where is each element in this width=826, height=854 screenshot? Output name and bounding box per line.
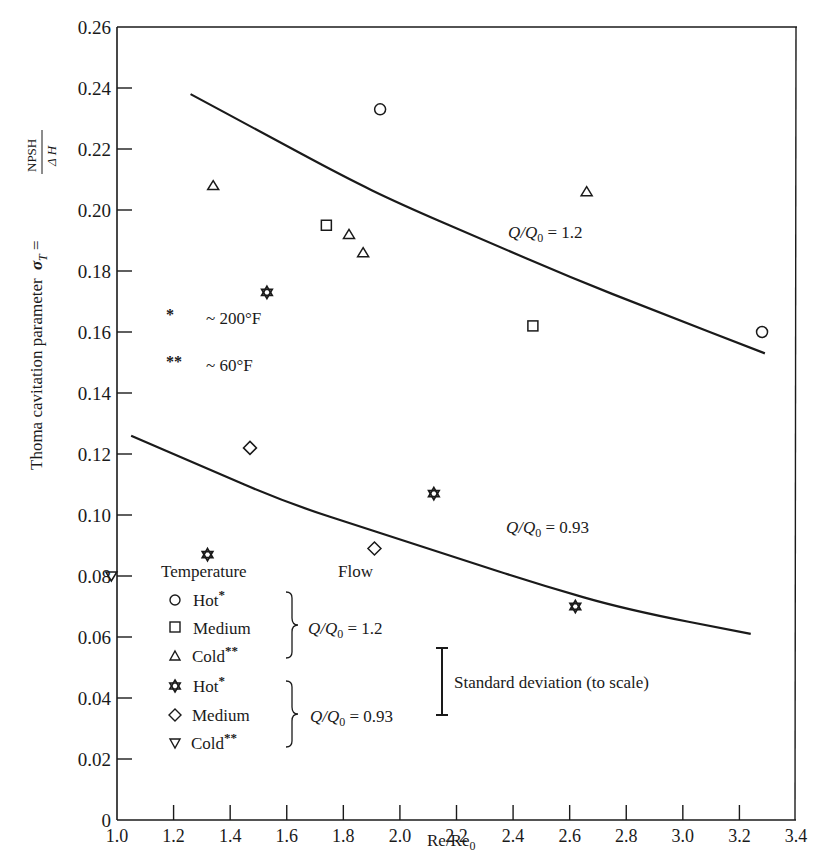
- diamond-marker-icon: [243, 441, 256, 454]
- svg-text:Hot*: Hot*: [193, 673, 225, 696]
- legend-header-flow: Flow: [338, 562, 374, 581]
- standard-deviation-bar: Standard deviation (to scale): [436, 648, 649, 715]
- square-marker-icon: [170, 622, 180, 632]
- svg-text:Hot*: Hot*: [193, 587, 225, 610]
- scatter-chart: 00.020.040.060.080.100.120.140.160.180.2…: [0, 0, 826, 854]
- legend-item-cold-093: Cold**: [170, 730, 237, 753]
- brace-q093: [286, 681, 298, 747]
- y-tick-label: 0.10: [78, 505, 111, 526]
- x-tick-label: 1.8: [332, 826, 355, 846]
- x-tick-label: 3.0: [672, 826, 695, 846]
- plot-frame: [117, 27, 797, 820]
- std-dev-label: Standard deviation (to scale): [454, 673, 649, 692]
- y-tick-label: 0.26: [78, 17, 111, 38]
- x-tick-label: 1.4: [219, 826, 242, 846]
- legend-item-hot-12: Hot*: [170, 587, 225, 610]
- y-tick-label: 0.16: [78, 322, 111, 343]
- legend-item-hot-093: Hot*: [170, 673, 225, 696]
- diamond-marker-icon: [368, 542, 381, 555]
- curve-q-q0-0-93: [131, 436, 751, 634]
- y-frac-denominator: Δ H: [44, 145, 59, 167]
- star-marker-icon: [262, 286, 272, 298]
- circle-marker-icon: [757, 327, 768, 338]
- legend-item-medium-12: Medium: [170, 619, 251, 638]
- triangle-up-marker-icon: [358, 248, 369, 257]
- curve-label-q093: Q/Q0 = 0.93: [506, 518, 589, 540]
- y-tick-label: 0.02: [78, 749, 111, 770]
- y-tick-label: 0.18: [78, 261, 111, 282]
- x-tick-label: 1.2: [162, 826, 185, 846]
- curve-q-q0-1-2: [191, 94, 765, 353]
- circle-marker-icon: [170, 595, 180, 605]
- x-tick-label: 2.4: [502, 826, 525, 846]
- brace-q12: [286, 592, 298, 658]
- x-tick-label: 2.6: [558, 826, 581, 846]
- triangle-up-marker-icon: [581, 187, 592, 196]
- triangle-up-marker-icon: [343, 229, 354, 238]
- svg-text:Cold**: Cold**: [192, 643, 238, 666]
- curve-label-q12: Q/Q0 = 1.2: [508, 223, 583, 245]
- y-tick-label: 0.14: [78, 383, 112, 404]
- star-marker-icon: [170, 680, 180, 692]
- svg-text:Medium: Medium: [193, 619, 251, 638]
- legend-item-cold-12: Cold**: [170, 643, 238, 666]
- x-tick-label: 2.8: [615, 826, 638, 846]
- legend-header-temperature: Temperature: [161, 562, 247, 581]
- triangle-up-marker-icon: [208, 181, 219, 190]
- y-axis-ticks: 00.020.040.060.080.100.120.140.160.180.2…: [78, 17, 132, 831]
- y-tick-label: 0.06: [78, 627, 111, 648]
- note-star-double: **: [166, 353, 182, 370]
- legend: Temperature Flow Hot* Medium Cold** Hot*…: [161, 562, 393, 753]
- x-tick-label: 3.4: [785, 826, 808, 846]
- y-frac-numerator: NPSH: [24, 139, 39, 172]
- legend-flow-q12: Q/Q0 = 1.2: [308, 619, 383, 641]
- x-tick-label: 1.0: [106, 826, 129, 846]
- diamond-marker-icon: [169, 709, 181, 721]
- svg-text:Cold**: Cold**: [191, 730, 237, 753]
- y-tick-label: 0.20: [78, 200, 111, 221]
- legend-item-medium-093: Medium: [169, 706, 250, 725]
- triangle-up-marker-icon: [170, 651, 180, 660]
- note-200f: ~ 200°F: [206, 309, 261, 328]
- y-tick-label: 0.08: [78, 566, 111, 587]
- y-tick-label: 0.24: [78, 78, 112, 99]
- square-marker-icon: [321, 220, 331, 230]
- triangle-down-marker-icon: [170, 739, 180, 748]
- y-axis-label: Thoma cavitation parameter σT = NPSH Δ H: [24, 130, 59, 470]
- temperature-notes: * ~ 200°F ** ~ 60°F: [166, 306, 261, 375]
- square-marker-icon: [528, 321, 538, 331]
- x-tick-label: 3.2: [728, 826, 751, 846]
- svg-text:Thoma cavitation parameter: Thoma cavitation parameter σT =: [27, 240, 50, 470]
- x-tick-label: 2.0: [389, 826, 412, 846]
- star-marker-icon: [202, 549, 212, 561]
- star-marker-icon: [429, 488, 439, 500]
- y-tick-label: 0.22: [78, 139, 111, 160]
- circle-marker-icon: [375, 104, 386, 115]
- star-marker-icon: [570, 601, 580, 613]
- legend-flow-q093: Q/Q0 = 0.93: [310, 707, 393, 729]
- x-tick-label: 1.6: [276, 826, 299, 846]
- x-axis-label: Re/Re0: [427, 831, 476, 853]
- note-60f: ~ 60°F: [206, 356, 253, 375]
- note-star-single: *: [166, 306, 174, 323]
- svg-text:Medium: Medium: [192, 706, 250, 725]
- y-tick-label: 0.12: [78, 444, 111, 465]
- y-tick-label: 0.04: [78, 688, 112, 709]
